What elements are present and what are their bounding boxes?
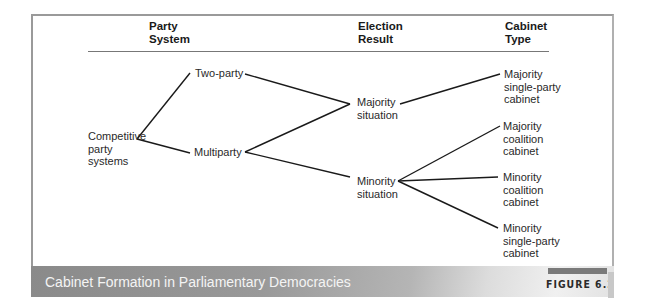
node-line: Two-party bbox=[195, 67, 243, 80]
node-majority-single-party-cabinet: Majority single-party cabinet bbox=[504, 68, 561, 106]
node-line: cabinet bbox=[503, 196, 543, 209]
node-line: Minority bbox=[503, 222, 560, 235]
node-line: Majority bbox=[357, 96, 398, 109]
node-minority-coalition-cabinet: Minority coalition cabinet bbox=[503, 171, 543, 209]
node-line: situation bbox=[357, 109, 398, 122]
figure-number: FIGURE 6.2 bbox=[546, 278, 615, 291]
node-minority-single-party-cabinet: Minority single-party cabinet bbox=[503, 222, 560, 260]
node-majority-coalition-cabinet: Majority coalition cabinet bbox=[503, 120, 543, 158]
node-line: Minority bbox=[357, 175, 398, 188]
node-line: Majority bbox=[504, 68, 561, 81]
node-line: single-party bbox=[503, 235, 560, 248]
edge-majority-situation-to-majority-single-party bbox=[400, 74, 500, 104]
figure-label-bar bbox=[548, 268, 607, 274]
node-line: coalition bbox=[503, 133, 543, 146]
node-line: Majority bbox=[503, 120, 543, 133]
node-line: Minority bbox=[503, 171, 543, 184]
node-line: cabinet bbox=[503, 145, 543, 158]
node-line: situation bbox=[357, 188, 398, 201]
node-line: cabinet bbox=[504, 93, 561, 106]
figure-caption: Cabinet Formation in Parliamentary Democ… bbox=[45, 274, 351, 290]
edge-minority-situation-to-minority-single-party bbox=[398, 181, 498, 228]
node-minority-situation: Minority situation bbox=[357, 175, 398, 200]
node-line: cabinet bbox=[503, 247, 560, 260]
edge-multiparty-to-majority-situation bbox=[245, 104, 350, 152]
node-line: party bbox=[88, 143, 146, 156]
edge-two-party-to-majority-situation bbox=[245, 74, 350, 104]
node-line: Multiparty bbox=[194, 146, 242, 159]
edge-minority-situation-to-minority-coalition bbox=[398, 177, 498, 181]
caption-shadow bbox=[608, 272, 614, 298]
node-line: single-party bbox=[504, 81, 561, 94]
node-two-party: Two-party bbox=[195, 67, 243, 80]
node-line: coalition bbox=[503, 184, 543, 197]
node-competitive-party-systems: Competitive party systems bbox=[88, 130, 146, 168]
node-majority-situation: Majority situation bbox=[357, 96, 398, 121]
edge-minority-situation-to-majority-coalition bbox=[398, 126, 500, 181]
node-line: systems bbox=[88, 155, 146, 168]
edge-multiparty-to-minority-situation bbox=[245, 152, 350, 177]
node-line: Competitive bbox=[88, 130, 146, 143]
figure-caption-bar: Cabinet Formation in Parliamentary Democ… bbox=[31, 266, 614, 297]
node-multiparty: Multiparty bbox=[194, 146, 242, 159]
